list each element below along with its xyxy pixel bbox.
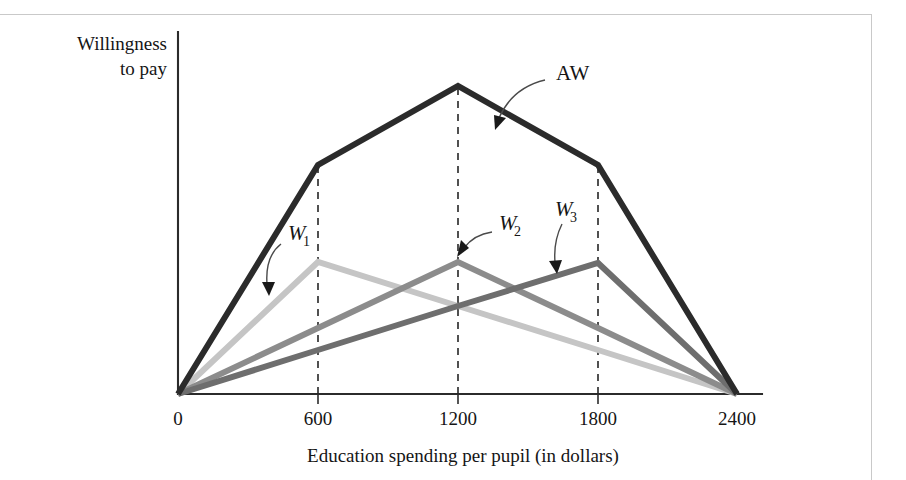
annotation-w2-subscript: 2: [514, 224, 521, 239]
chart-canvas: Willingness to pay AW W: [0, 0, 906, 480]
annotation-w1-subscript: 1: [303, 234, 310, 249]
annotation-w2: W 2: [457, 211, 521, 257]
annotation-aw-label: AW: [556, 61, 589, 85]
y-axis-label-line1: Willingness: [77, 33, 167, 54]
x-tick-label-2400: 2400: [718, 408, 756, 429]
figure-root: Willingness to pay AW W: [0, 0, 906, 480]
annotation-aw: AW: [494, 61, 589, 130]
annotation-w3-subscript: 3: [570, 210, 577, 225]
x-axis-title: Education spending per pupil (in dollars…: [307, 445, 619, 467]
x-tick-label-600: 600: [304, 408, 333, 429]
y-axis-label-line2: to pay: [120, 58, 167, 79]
annotation-w1: W 1: [262, 221, 310, 296]
annotation-w3: W 3: [549, 197, 577, 274]
x-tick-label-1200: 1200: [439, 408, 477, 429]
x-tick-label-0: 0: [173, 408, 183, 429]
x-tick-label-1800: 1800: [579, 408, 617, 429]
